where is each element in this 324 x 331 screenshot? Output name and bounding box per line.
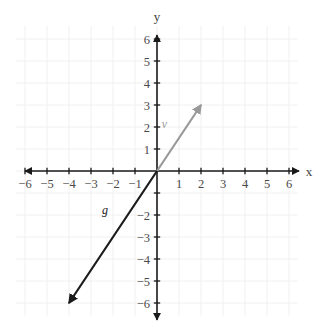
y-tick-label: −6 xyxy=(137,297,150,311)
x-tick-label: 4 xyxy=(242,177,249,191)
x-tick-label: 6 xyxy=(286,177,292,191)
x-tick-label: −3 xyxy=(84,177,97,191)
x-tick-label: 3 xyxy=(220,177,226,191)
y-tick-label: −5 xyxy=(137,275,150,289)
x-tick-label: −4 xyxy=(62,177,76,191)
y-tick-label: 6 xyxy=(144,33,150,47)
vector-label-v: v⃗ xyxy=(162,117,177,131)
y-axis-label: y xyxy=(154,9,161,24)
y-tick-label: −3 xyxy=(137,231,150,245)
y-tick-label: 3 xyxy=(144,99,150,113)
x-tick-label: −5 xyxy=(40,177,53,191)
x-tick-label: −2 xyxy=(106,177,119,191)
y-tick-label: −2 xyxy=(137,209,150,223)
x-tick-label: −6 xyxy=(18,177,31,191)
y-tick-label: 4 xyxy=(144,77,151,91)
y-tick-label: 1 xyxy=(144,143,150,157)
x-tick-label: 1 xyxy=(176,177,182,191)
vector-diagram: −6−5−4−3−2−1123456−6−5−4−3−2123456 v⃗g⃗ … xyxy=(0,0,324,331)
x-tick-label: 2 xyxy=(198,177,204,191)
vector-label-g: g⃗ xyxy=(102,203,117,217)
y-tick-label: 5 xyxy=(144,55,150,69)
x-tick-label: 5 xyxy=(264,177,270,191)
x-tick-label: −1 xyxy=(128,177,141,191)
y-tick-label: 2 xyxy=(144,121,150,135)
x-axis-label: x xyxy=(306,164,313,179)
coordinate-plane-svg: −6−5−4−3−2−1123456−6−5−4−3−2123456 v⃗g⃗ … xyxy=(0,0,324,331)
y-tick-label: −4 xyxy=(137,253,151,267)
